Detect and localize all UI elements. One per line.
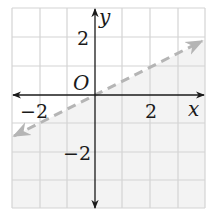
x-axis-label: x <box>188 97 199 121</box>
y-tick-label-neg2: −2 <box>63 142 91 164</box>
shaded-region <box>12 40 205 208</box>
y-tick-label-2: 2 <box>77 27 89 49</box>
coordinate-plane: y x O −2 2 2 −2 <box>0 0 215 215</box>
x-tick-label-neg2: −2 <box>20 100 48 122</box>
origin-label: O <box>73 71 89 95</box>
y-axis-label: y <box>98 5 111 29</box>
x-tick-label-2: 2 <box>145 100 157 122</box>
